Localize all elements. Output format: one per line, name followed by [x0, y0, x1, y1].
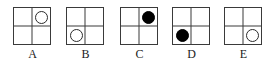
option-d[interactable]: D [165, 0, 218, 69]
cell-bottom-left [173, 26, 191, 44]
cell-top-right [85, 8, 103, 26]
answer-options-figure: A B C [0, 0, 275, 69]
grid-square-e [224, 7, 262, 45]
cell-top-right [191, 8, 209, 26]
cell-bottom-right [243, 26, 261, 44]
option-c[interactable]: C [113, 0, 166, 69]
cell-top-right [139, 8, 157, 26]
cell-top-right [243, 8, 261, 26]
cell-top-right [32, 8, 50, 26]
open-circle-icon [70, 29, 83, 42]
grid-square-a [13, 7, 51, 45]
cell-bottom-left [121, 26, 139, 44]
option-label-b: B [59, 47, 112, 61]
option-label-d: D [165, 47, 218, 61]
cell-top-left [121, 8, 139, 26]
cell-bottom-right [85, 26, 103, 44]
cell-top-left [14, 8, 32, 26]
cell-top-left [67, 8, 85, 26]
grid-square-b [66, 7, 104, 45]
option-e[interactable]: E [217, 0, 270, 69]
filled-circle-icon [176, 29, 189, 42]
cell-top-left [173, 8, 191, 26]
cell-bottom-left [67, 26, 85, 44]
grid-square-d [172, 7, 210, 45]
grid-square-c [120, 7, 158, 45]
cell-bottom-left [225, 26, 243, 44]
option-label-c: C [113, 47, 166, 61]
cell-top-left [225, 8, 243, 26]
cell-bottom-right [191, 26, 209, 44]
open-circle-icon [246, 29, 259, 42]
cell-bottom-left [14, 26, 32, 44]
cell-bottom-right [32, 26, 50, 44]
option-label-e: E [217, 47, 270, 61]
option-label-a: A [6, 47, 59, 61]
filled-circle-icon [142, 11, 155, 24]
open-circle-icon [35, 11, 48, 24]
cell-bottom-right [139, 26, 157, 44]
option-b[interactable]: B [59, 0, 112, 69]
option-a[interactable]: A [6, 0, 59, 69]
